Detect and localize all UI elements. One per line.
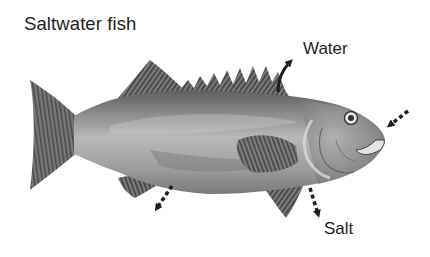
mouth-intake-arrow [390, 111, 408, 125]
tail-fin [30, 80, 78, 190]
eye-pupil [348, 115, 354, 121]
fish-diagram [0, 0, 430, 257]
salt-out-vent-arrow [157, 186, 172, 208]
salt-out-gill-arrow [310, 188, 318, 214]
